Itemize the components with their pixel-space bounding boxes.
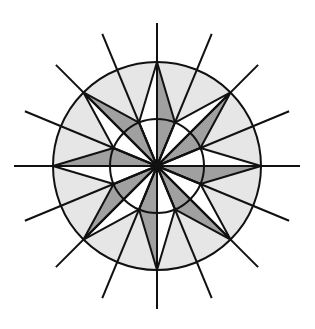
center-point <box>154 163 161 170</box>
compass-rose-diagram <box>0 0 315 329</box>
